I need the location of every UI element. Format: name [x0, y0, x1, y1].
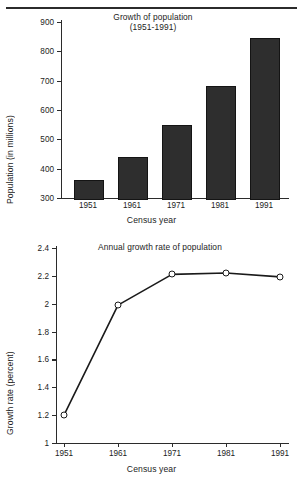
line-chart-x-axis-label: Census year	[0, 464, 303, 474]
bar-xtick-label-1961: 1961	[123, 201, 141, 210]
growth-rate-line-chart: Annual growth rate of population Growth …	[0, 240, 303, 493]
data-point-1981	[223, 270, 230, 277]
bar-ytick-600	[57, 110, 61, 111]
population-bar-chart: Growth of population (1951-1991) Populat…	[0, 10, 303, 235]
bar-xtick-label-1971: 1971	[167, 201, 185, 210]
bar-1991	[250, 38, 280, 200]
bar-chart-plot-area: 300 400 500 600 700 800 900 1951 1961 19…	[0, 10, 303, 235]
data-point-1951	[61, 412, 68, 419]
bar-xtick-label-1991: 1991	[255, 201, 273, 210]
bar-ytick-700	[57, 81, 61, 82]
bar-ytick-500	[57, 139, 61, 140]
bar-ytick-300	[57, 198, 61, 199]
bar-ytick-label-900: 900	[24, 18, 54, 27]
bar-ytick-label-300: 300	[24, 194, 54, 203]
bar-1981	[206, 86, 236, 200]
data-point-1961	[115, 302, 122, 309]
bar-xtick-label-1951: 1951	[79, 201, 97, 210]
bar-xtick-label-1981: 1981	[211, 201, 229, 210]
data-point-1991	[277, 273, 284, 280]
bar-ytick-800	[57, 51, 61, 52]
line-chart-plot-area: 2.4 2.2 2 1.8 1.6 1.4 1.2 1 1951 1961 19	[0, 240, 303, 493]
bar-chart-x-axis-label: Census year	[0, 215, 303, 225]
data-point-1971	[169, 271, 176, 278]
bar-chart-y-axis-line	[61, 20, 62, 199]
bar-ytick-label-500: 500	[24, 135, 54, 144]
top-horizontal-rule	[6, 7, 297, 9]
bar-ytick-label-700: 700	[24, 76, 54, 85]
bar-ytick-label-800: 800	[24, 47, 54, 56]
figure-page: Growth of population (1951-1991) Populat…	[0, 0, 303, 493]
bar-1971	[162, 125, 192, 200]
bar-ytick-400	[57, 169, 61, 170]
bar-ytick-900	[57, 22, 61, 23]
bar-ytick-label-600: 600	[24, 106, 54, 115]
bar-ytick-label-400: 400	[24, 164, 54, 173]
bar-1951	[74, 180, 104, 200]
growth-rate-series-line	[0, 240, 303, 493]
bar-1961	[118, 157, 148, 200]
